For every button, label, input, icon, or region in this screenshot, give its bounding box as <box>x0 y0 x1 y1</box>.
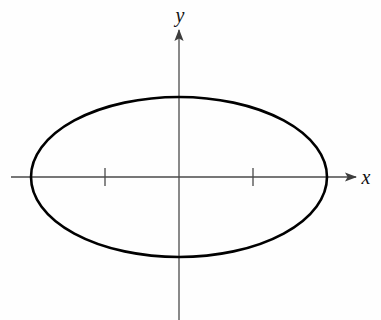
figure-canvas: x y <box>0 0 381 320</box>
y-axis-label: y <box>174 4 185 27</box>
ellipse-diagram: x y <box>0 0 381 320</box>
x-axis-label: x <box>361 166 371 188</box>
